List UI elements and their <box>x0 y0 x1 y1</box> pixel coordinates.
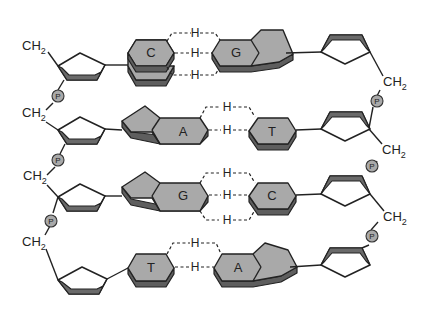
svg-text:T: T <box>147 260 155 275</box>
base-C: C <box>128 40 174 86</box>
phosphate-icon: P <box>52 90 64 102</box>
svg-text:H: H <box>223 213 232 227</box>
base-T: T <box>128 254 174 287</box>
phosphate-icon: P <box>371 95 383 107</box>
right-sugar-2 <box>321 112 370 141</box>
svg-text:H: H <box>223 123 232 137</box>
base-pair-2: A H H T <box>105 100 321 150</box>
svg-text:P: P <box>369 162 374 171</box>
right-sugar-4 <box>321 248 370 277</box>
svg-text:T: T <box>268 124 276 139</box>
ch2-label: CH2 <box>23 168 47 186</box>
svg-text:P: P <box>48 217 53 226</box>
svg-text:H: H <box>191 260 200 274</box>
svg-text:A: A <box>179 124 188 139</box>
left-sugar-3 <box>58 184 105 211</box>
base-pair-4: T H H A <box>107 236 321 287</box>
svg-text:H: H <box>223 100 232 114</box>
phosphate-icon: P <box>45 215 57 227</box>
svg-text:P: P <box>55 92 60 101</box>
right-sugar-3 <box>321 176 370 206</box>
dna-base-pair-diagram: CH2 CH2 CH2 CH2 P P P <box>0 0 432 321</box>
ch2-label: CH2 <box>22 105 46 123</box>
base-T: T <box>249 118 296 150</box>
svg-text:A: A <box>234 260 243 275</box>
ch2-label: CH2 <box>22 234 46 252</box>
svg-text:H: H <box>191 236 200 250</box>
right-backbone: CH2 CH2 CH2 P P P <box>321 35 407 277</box>
base-A: A <box>122 106 208 144</box>
svg-text:H: H <box>223 188 232 202</box>
ch2-label: CH2 <box>383 209 407 227</box>
right-sugar-1 <box>321 35 370 64</box>
left-sugar-4 <box>58 267 107 294</box>
phosphate-icon: P <box>366 230 378 242</box>
svg-text:P: P <box>369 232 374 241</box>
base-pair-1: C H H H G <box>105 26 321 86</box>
phosphate-icon: P <box>366 160 378 172</box>
ch2-label: CH2 <box>383 74 407 92</box>
svg-text:G: G <box>178 188 188 203</box>
base-G: G <box>122 172 208 211</box>
svg-text:H: H <box>191 68 200 82</box>
base-C: C <box>249 183 296 215</box>
svg-text:G: G <box>231 45 241 60</box>
phosphate-icon: P <box>52 154 64 166</box>
left-sugar-2 <box>58 117 105 144</box>
svg-text:C: C <box>146 45 155 60</box>
svg-text:C: C <box>267 188 276 203</box>
base-A: A <box>214 243 297 287</box>
svg-text:P: P <box>374 97 379 106</box>
left-backbone: CH2 CH2 CH2 CH2 P P P <box>22 38 107 294</box>
svg-text:P: P <box>55 156 60 165</box>
svg-text:H: H <box>191 26 200 40</box>
left-sugar-1 <box>58 53 105 80</box>
base-G: G <box>212 30 293 72</box>
base-pair-3: G H H H C <box>105 166 321 227</box>
svg-text:H: H <box>191 46 200 60</box>
ch2-label: CH2 <box>22 38 46 56</box>
svg-text:H: H <box>223 166 232 180</box>
ch2-label: CH2 <box>382 142 406 160</box>
